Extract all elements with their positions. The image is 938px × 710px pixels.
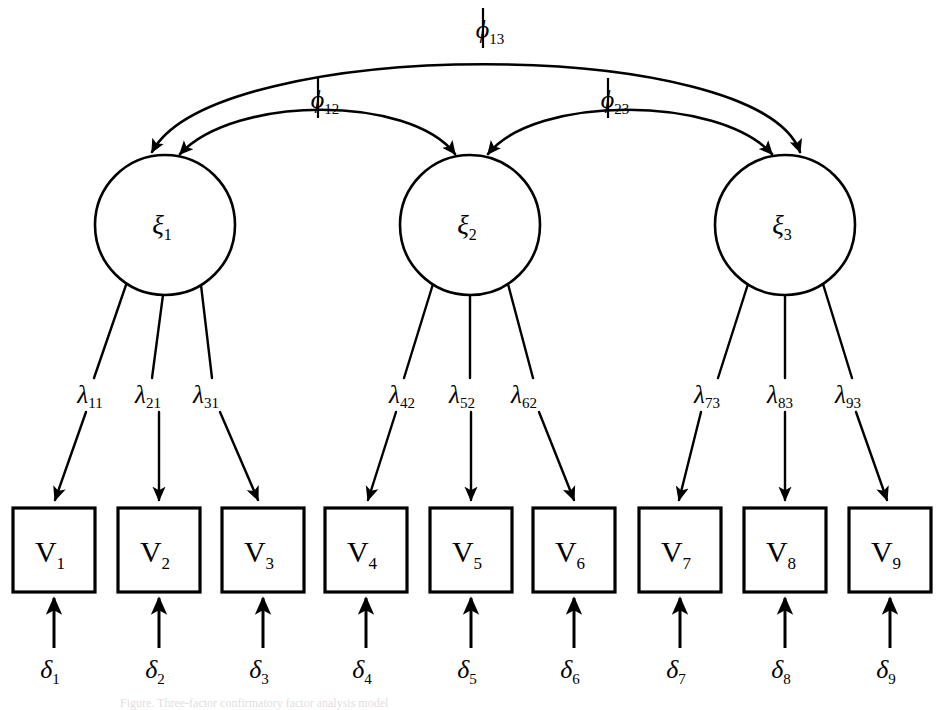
loading-stem-l62 bbox=[508, 284, 533, 378]
loading-paths bbox=[55, 284, 887, 500]
loading-stem-l93 bbox=[823, 284, 852, 378]
error-labels: δ1 δ2 δ3 δ4 δ5 δ6 δ7 δ8 δ9 bbox=[40, 655, 896, 687]
error-label-d1: δ1 bbox=[40, 655, 60, 687]
loading-label-l52: λ52 bbox=[448, 381, 475, 411]
indicator-boxes: V1 V2 V3 V4 V5 V6 V7 V8 V9 bbox=[13, 508, 931, 592]
loading-arrow-l31 bbox=[220, 412, 258, 500]
error-label-d3: δ3 bbox=[249, 655, 269, 687]
loading-stem-l31 bbox=[201, 285, 212, 378]
loading-stem-l42 bbox=[404, 284, 433, 378]
loading-label-l31: λ31 bbox=[192, 381, 219, 411]
covariance-curves bbox=[152, 64, 800, 154]
loading-stem-l11 bbox=[94, 285, 126, 378]
loading-label-l93: λ93 bbox=[834, 381, 861, 411]
error-label-d7: δ7 bbox=[666, 655, 686, 687]
loading-label-l62: λ62 bbox=[510, 381, 537, 411]
loading-label-l11: λ11 bbox=[76, 381, 102, 411]
covariance-label-phi13: ϕ13 bbox=[476, 15, 504, 47]
latent-factor-xi2[interactable] bbox=[400, 155, 540, 295]
covariance-curve-phi23 bbox=[488, 110, 772, 154]
covariance-curve-phi13 bbox=[152, 64, 800, 152]
error-label-d6: δ6 bbox=[560, 655, 580, 687]
loading-labels: λ11 λ21 λ31 λ42 λ52 λ62 λ73 λ83 bbox=[76, 381, 861, 411]
figure-caption-partial: Figure. Three-factor confirmatory factor… bbox=[0, 696, 938, 710]
covariance-labels: ϕ13 ϕ12 ϕ23 bbox=[311, 15, 629, 117]
latent-factor-xi1[interactable] bbox=[95, 155, 235, 295]
loading-label-l21: λ21 bbox=[134, 381, 161, 411]
loading-arrow-l11 bbox=[55, 412, 86, 500]
error-label-d8: δ8 bbox=[771, 655, 791, 687]
sem-diagram-svg: ϕ13 ϕ12 ϕ23 bbox=[0, 0, 938, 710]
loading-stem-l73 bbox=[718, 284, 748, 378]
loading-arrow-l62 bbox=[539, 412, 574, 500]
phi-glyph-strokes bbox=[318, 8, 608, 118]
error-label-d9: δ9 bbox=[876, 655, 896, 687]
error-label-d2: δ2 bbox=[145, 655, 165, 687]
path-diagram-canvas: ϕ13 ϕ12 ϕ23 bbox=[0, 0, 938, 710]
loading-arrow-l42 bbox=[368, 412, 396, 500]
latent-factor-nodes: ξ1 ξ2 ξ3 bbox=[95, 155, 855, 295]
loading-label-l83: λ83 bbox=[766, 381, 793, 411]
covariance-label-phi23: ϕ23 bbox=[601, 85, 629, 117]
error-label-d4: δ4 bbox=[352, 655, 372, 687]
loading-label-l42: λ42 bbox=[388, 381, 415, 411]
covariance-label-phi12: ϕ12 bbox=[311, 85, 339, 117]
loading-label-l73: λ73 bbox=[693, 381, 720, 411]
error-arrows bbox=[54, 598, 890, 648]
loading-arrow-l93 bbox=[856, 412, 887, 500]
error-label-d5: δ5 bbox=[457, 655, 477, 687]
loading-arrow-l73 bbox=[679, 412, 701, 500]
latent-factor-xi3[interactable] bbox=[715, 155, 855, 295]
loading-stem-l21 bbox=[152, 295, 163, 378]
